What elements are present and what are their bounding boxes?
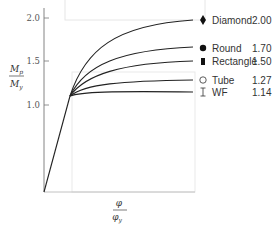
curve-wf [70, 92, 193, 96]
i-beam-marker-icon [201, 88, 206, 96]
svg-text:φy: φy [112, 212, 122, 224]
legend-value-round: 1.70 [252, 43, 272, 54]
y-tick-1.5: 1.5 [26, 56, 49, 66]
filled-rectangle-marker-icon [201, 58, 205, 65]
curve-diamond [70, 20, 193, 96]
y-axis-label: Mp My [9, 64, 24, 91]
svg-text:φ: φ [116, 198, 123, 208]
y-tick-1.0: 1.0 [26, 100, 49, 110]
legend-label-wf: WF [212, 87, 228, 98]
legend-label-round: Round [212, 43, 241, 54]
x-axis-label: φ φy [112, 198, 127, 224]
curve-tube [70, 80, 193, 96]
legend-label-diamond: Diamond [212, 15, 252, 26]
curve-rectangle [70, 61, 193, 96]
svg-text:2.0: 2.0 [26, 13, 40, 23]
faint-box-top [65, 0, 205, 20]
legend-value-tube: 1.27 [252, 75, 272, 86]
open-circle-marker-icon [200, 77, 206, 83]
legend-value-wf: 1.14 [252, 87, 272, 98]
legend-label-rectangle: Rectangle [212, 56, 257, 67]
y-tick-2.0: 2.0 [26, 13, 49, 23]
legend-value-diamond: 2.00 [252, 15, 272, 26]
faint-box-middle [72, 72, 195, 192]
svg-text:1.5: 1.5 [26, 56, 40, 66]
moment-curvature-chart: 2.0 1.5 1.0 Mp My φ φy Diamond 2.00 Roun… [0, 0, 272, 227]
svg-text:Mp: Mp [9, 64, 23, 76]
legend-value-rectangle: 1.50 [252, 56, 272, 67]
legend-label-tube: Tube [212, 75, 235, 86]
svg-text:1.0: 1.0 [26, 100, 40, 110]
elastic-line [44, 96, 70, 192]
svg-text:My: My [9, 79, 23, 91]
filled-circle-marker-icon [200, 45, 206, 51]
